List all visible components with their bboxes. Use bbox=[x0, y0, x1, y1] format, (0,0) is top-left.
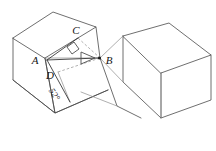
label-point-d: D bbox=[45, 69, 54, 81]
label-point-a: A bbox=[31, 54, 39, 66]
figure-canvas: A B C D 52° bbox=[0, 0, 216, 151]
right-box-right-face bbox=[161, 55, 211, 118]
left-box-top-face bbox=[13, 12, 96, 58]
label-point-c: C bbox=[72, 24, 80, 36]
vertex-dot-b bbox=[98, 56, 101, 59]
right-box-top-face bbox=[123, 23, 211, 73]
wedge-edge-left bbox=[100, 58, 141, 118]
dashed-line-d-to-b bbox=[58, 58, 100, 72]
geometry-figure: A B C D 52° bbox=[0, 0, 216, 151]
right-box-front-face bbox=[123, 36, 161, 118]
right-box bbox=[123, 23, 211, 118]
label-angle-52: 52° bbox=[47, 86, 63, 102]
left-box-right-slant-edge bbox=[96, 27, 100, 58]
intersection-lines bbox=[81, 36, 141, 118]
label-point-b: B bbox=[106, 54, 113, 66]
ray-a-to-c bbox=[47, 38, 78, 60]
